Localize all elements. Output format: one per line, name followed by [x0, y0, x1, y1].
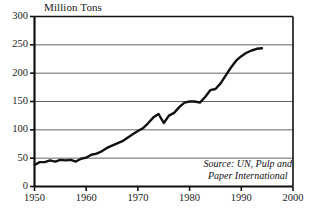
- y-tick-label-200: 200: [0, 68, 28, 78]
- x-tick-label-1970: 1970: [118, 193, 158, 203]
- y-tick-label-100: 100: [0, 124, 28, 134]
- series-line-0: [35, 48, 262, 165]
- x-tick-label-1990: 1990: [221, 193, 261, 203]
- y-tick-label-250: 250: [0, 39, 28, 49]
- y-tick-label-150: 150: [0, 96, 28, 106]
- source-note-line-2: Paper International: [203, 170, 292, 182]
- chart-figure: Million Tons 050100150200250300 19501960…: [0, 0, 322, 217]
- x-tick-label-2000: 2000: [273, 193, 313, 203]
- y-tick-label-50: 50: [0, 153, 28, 163]
- x-tick-label-1980: 1980: [170, 193, 210, 203]
- plot-canvas: [0, 0, 322, 217]
- y-tick-label-0: 0: [0, 181, 28, 191]
- x-tick-label-1960: 1960: [66, 193, 106, 203]
- source-note-line-1: Source: UN, Pulp and: [203, 158, 292, 170]
- gridlines: [35, 45, 294, 158]
- source-note: Source: UN, Pulp and Paper International: [203, 158, 292, 181]
- data-series-line: [35, 48, 262, 165]
- x-tick-label-1950: 1950: [15, 193, 55, 203]
- y-tick-label-300: 300: [0, 11, 28, 21]
